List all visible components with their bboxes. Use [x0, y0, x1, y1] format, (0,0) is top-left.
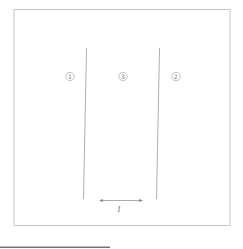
arrow-head-right [139, 199, 143, 202]
dimension-arrow: l [99, 199, 143, 214]
dimension-label: l [118, 205, 121, 214]
region-marker-right: 2 [172, 72, 180, 80]
region-marker-middle: 3 [119, 72, 127, 80]
region-label: 3 [121, 73, 125, 80]
region-label: 2 [174, 73, 178, 80]
divider-line-left [84, 48, 87, 199]
outer-frame [14, 10, 230, 226]
region-marker-left: 1 [66, 72, 74, 80]
diagram-canvas: 1 3 2 l [0, 0, 243, 249]
bottom-bar [0, 247, 110, 249]
divider-line-right [157, 48, 160, 199]
region-label: 1 [68, 73, 72, 80]
arrow-head-left [99, 199, 103, 202]
